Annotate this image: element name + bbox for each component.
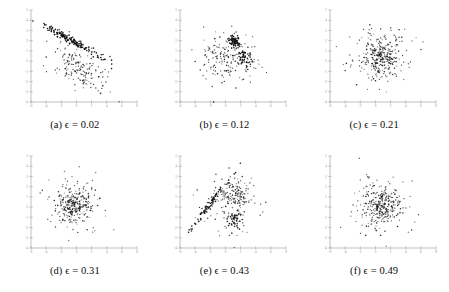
data-point (195, 223, 197, 225)
data-point (408, 63, 410, 65)
data-point (409, 206, 410, 207)
data-point (248, 188, 250, 190)
data-point (68, 54, 70, 56)
data-point (239, 202, 241, 204)
data-point (76, 183, 77, 184)
data-point (358, 55, 360, 57)
data-point (74, 193, 75, 194)
data-point (249, 200, 250, 201)
data-point (240, 194, 241, 195)
y-tick-label: -2 (25, 80, 28, 84)
data-point (232, 194, 233, 195)
data-point (108, 71, 109, 72)
data-point (405, 207, 407, 209)
y-tick-label: -4 (175, 100, 178, 104)
data-point (55, 51, 56, 52)
data-point (65, 66, 67, 68)
data-point (385, 212, 387, 214)
data-point (213, 65, 215, 67)
data-point (224, 190, 226, 192)
data-point (215, 52, 217, 54)
data-point (380, 52, 381, 53)
data-point (380, 37, 382, 39)
data-point (236, 54, 237, 55)
data-point (381, 47, 383, 49)
data-point (79, 200, 80, 201)
data-point (225, 226, 226, 227)
data-point (373, 204, 375, 206)
data-point (230, 74, 231, 75)
data-point (392, 201, 393, 202)
data-point (401, 41, 403, 43)
data-point (340, 227, 341, 228)
data-point (366, 212, 368, 214)
data-point (46, 41, 48, 43)
data-point (75, 55, 76, 56)
data-point (210, 208, 212, 210)
data-point (64, 34, 66, 36)
data-point (240, 57, 242, 59)
data-point (238, 62, 240, 64)
data-point (63, 59, 65, 61)
data-point (250, 63, 252, 65)
data-point (382, 49, 384, 51)
data-point (245, 57, 247, 59)
data-point (386, 208, 387, 209)
data-point (80, 40, 82, 42)
data-point (395, 190, 397, 192)
data-point (64, 38, 66, 40)
data-point (220, 56, 221, 57)
data-point (383, 218, 384, 219)
data-point (78, 205, 79, 206)
data-point (387, 60, 388, 61)
data-point (381, 76, 383, 78)
data-point (380, 46, 382, 48)
data-point (379, 89, 380, 90)
data-point (111, 59, 113, 61)
data-point (67, 207, 68, 208)
data-point (392, 197, 393, 198)
data-point (64, 171, 66, 173)
data-point (75, 219, 77, 221)
data-point (102, 76, 104, 78)
data-point (229, 223, 231, 225)
data-point (236, 186, 237, 187)
data-point (369, 33, 371, 35)
data-point (400, 208, 402, 210)
x-tick-label: 6 (271, 104, 273, 108)
data-point (59, 37, 61, 39)
data-point (406, 50, 408, 52)
data-point (243, 214, 244, 215)
data-point (69, 192, 70, 193)
data-point (88, 217, 89, 218)
plot-area-e: -4-3-2-1012345-6-4-202468 (160, 152, 288, 264)
data-point (248, 59, 250, 61)
data-point (234, 49, 235, 50)
data-point (213, 51, 214, 52)
data-point (374, 55, 376, 57)
data-point (251, 199, 252, 200)
x-tick-label: 4 (255, 250, 257, 254)
data-point (346, 63, 348, 65)
data-point (67, 200, 68, 201)
data-point (235, 195, 236, 196)
data-point (357, 210, 358, 211)
data-point (373, 209, 374, 210)
data-point (208, 207, 210, 209)
data-point (345, 70, 347, 72)
data-point (242, 219, 244, 221)
data-point (235, 55, 237, 57)
data-point (205, 206, 207, 208)
data-point (386, 55, 387, 56)
data-point (62, 56, 63, 57)
data-point (239, 192, 241, 194)
data-point (66, 215, 67, 216)
y-tick-label: 4 (176, 18, 178, 22)
data-point (245, 69, 247, 71)
y-tick-label: 1 (325, 195, 327, 199)
data-point (74, 196, 76, 198)
data-point (201, 213, 203, 215)
data-point (231, 71, 233, 73)
data-point (253, 61, 255, 63)
data-point (237, 186, 238, 187)
